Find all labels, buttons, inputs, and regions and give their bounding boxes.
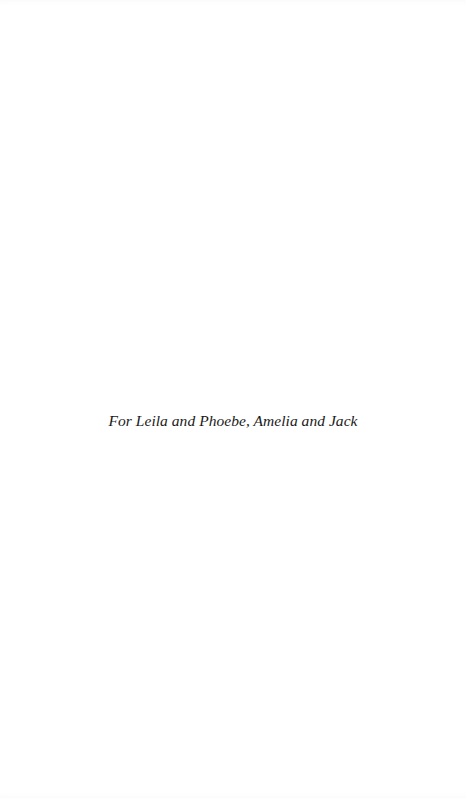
book-page: For Leila and Phoebe, Amelia and Jack — [0, 0, 466, 798]
dedication-text: For Leila and Phoebe, Amelia and Jack — [0, 412, 466, 430]
